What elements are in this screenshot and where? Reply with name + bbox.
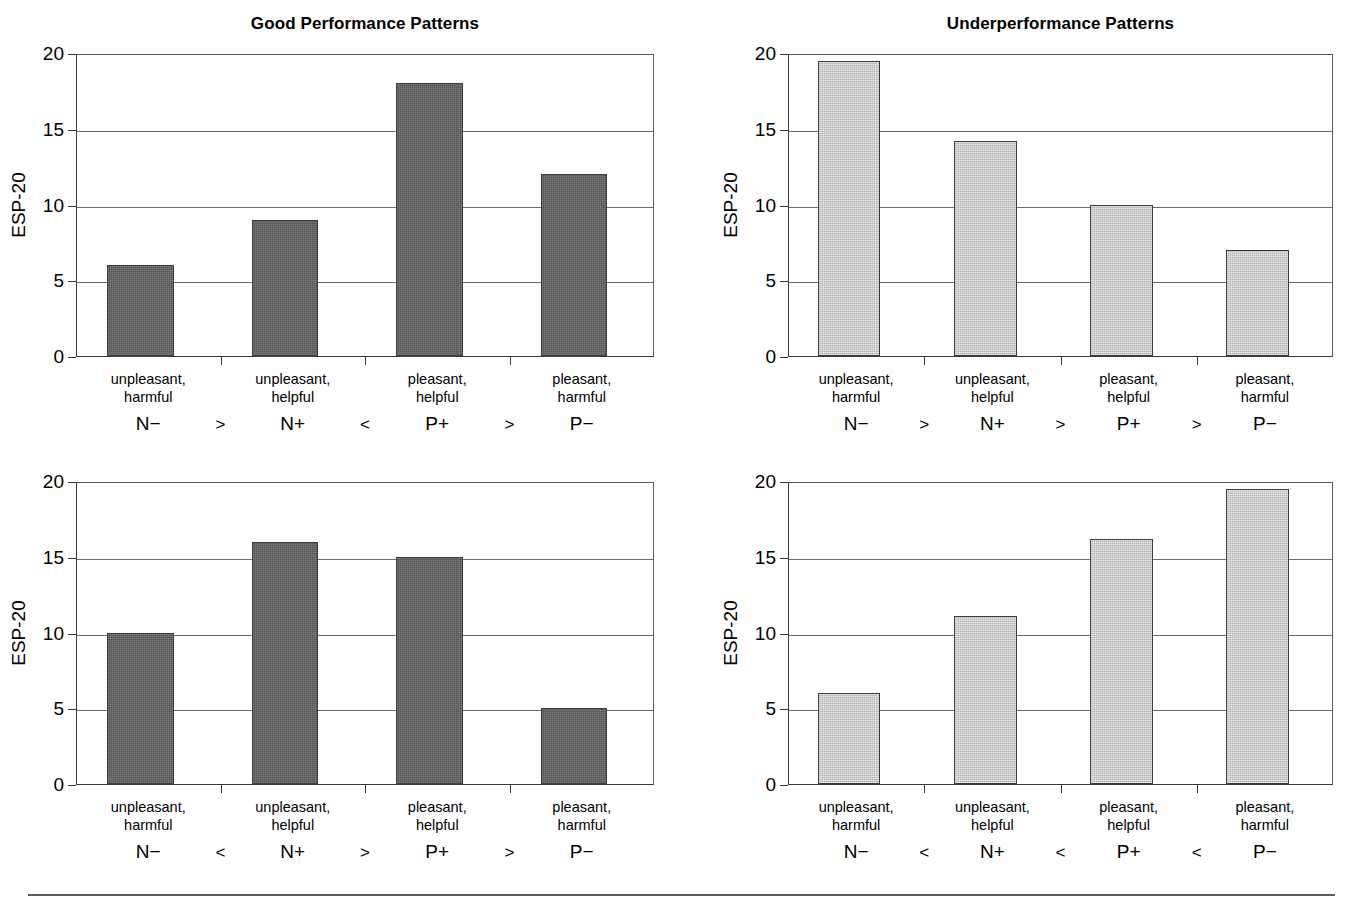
pattern-comparison-operator: < bbox=[992, 843, 1128, 863]
y-axis-title: ESP-20 bbox=[720, 563, 742, 703]
x-axis-category-label: pleasant,harmful bbox=[1197, 798, 1333, 834]
category-label-line1: unpleasant, bbox=[788, 798, 924, 816]
x-axis-category-label: pleasant,helpful bbox=[1061, 798, 1197, 834]
bar-series bbox=[789, 483, 1332, 784]
pattern-comparison-operator: < bbox=[856, 843, 992, 863]
y-axis-tick-label: 0 bbox=[726, 775, 776, 794]
category-label-line2: helpful bbox=[924, 816, 1060, 834]
y-axis-tick-mark bbox=[780, 785, 788, 786]
x-axis-tick-mark bbox=[1061, 785, 1062, 793]
category-label-line2: harmful bbox=[788, 816, 924, 834]
y-axis-tick-label: 20 bbox=[726, 472, 776, 491]
y-axis-tick-mark bbox=[780, 558, 788, 559]
x-axis-category-label: unpleasant,harmful bbox=[788, 798, 924, 834]
bar bbox=[1226, 489, 1289, 784]
y-axis-tick-mark bbox=[780, 634, 788, 635]
category-label-line2: harmful bbox=[1197, 816, 1333, 834]
x-axis-tick-mark bbox=[924, 785, 925, 793]
category-label-line1: pleasant, bbox=[1197, 798, 1333, 816]
category-label-line1: unpleasant, bbox=[924, 798, 1060, 816]
chart-panel-underperformance-bottom: 05101520ESP-20unpleasant,harmfulunpleasa… bbox=[0, 0, 1367, 916]
pattern-comparison-operator: < bbox=[1129, 843, 1265, 863]
bar bbox=[818, 693, 881, 784]
category-label-line2: helpful bbox=[1061, 816, 1197, 834]
y-axis-tick-mark bbox=[780, 482, 788, 483]
x-axis-tick-mark bbox=[1197, 785, 1198, 793]
bar bbox=[954, 616, 1017, 784]
category-label-line1: pleasant, bbox=[1061, 798, 1197, 816]
x-axis-category-label: unpleasant,helpful bbox=[924, 798, 1060, 834]
y-axis-tick-mark bbox=[780, 709, 788, 710]
bar bbox=[1090, 539, 1153, 784]
footer-divider-rule bbox=[28, 894, 1335, 896]
plot-area bbox=[788, 482, 1333, 785]
figure-canvas: Good Performance Patterns05101520ESP-20u… bbox=[0, 0, 1367, 916]
